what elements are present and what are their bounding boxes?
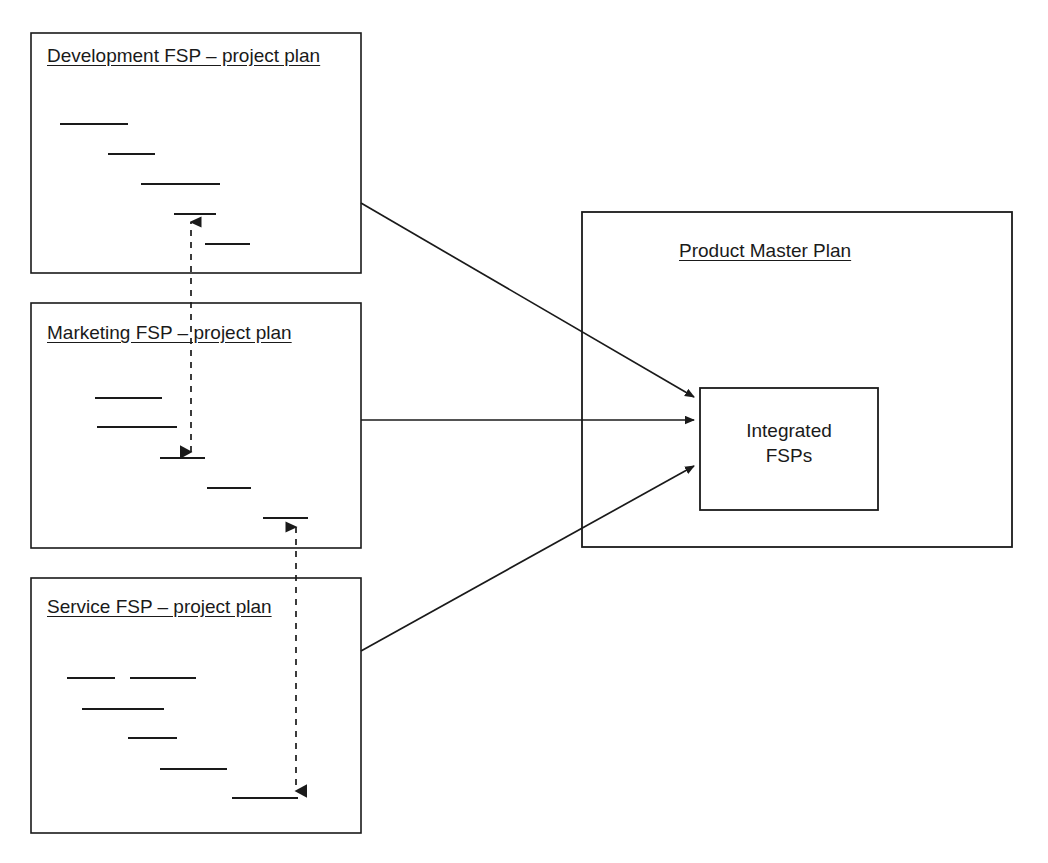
integrated-fsps-label: Integrated FSPs	[700, 418, 878, 468]
diagram-vector-layer	[0, 0, 1048, 863]
development-fsp-title: Development FSP – project plan	[47, 45, 320, 67]
diagram-canvas: Development FSP – project plan Marketing…	[0, 0, 1048, 863]
box-development-fsp[interactable]	[31, 33, 361, 273]
integrated-fsps-label-line1: Integrated	[700, 418, 878, 443]
service-fsp-title: Service FSP – project plan	[47, 596, 272, 618]
product-master-plan-title: Product Master Plan	[679, 240, 851, 262]
marketing-fsp-title: Marketing FSP – project plan	[47, 322, 292, 344]
integrated-fsps-label-line2: FSPs	[700, 443, 878, 468]
flow-arrow-service-to-integrated	[361, 466, 694, 651]
